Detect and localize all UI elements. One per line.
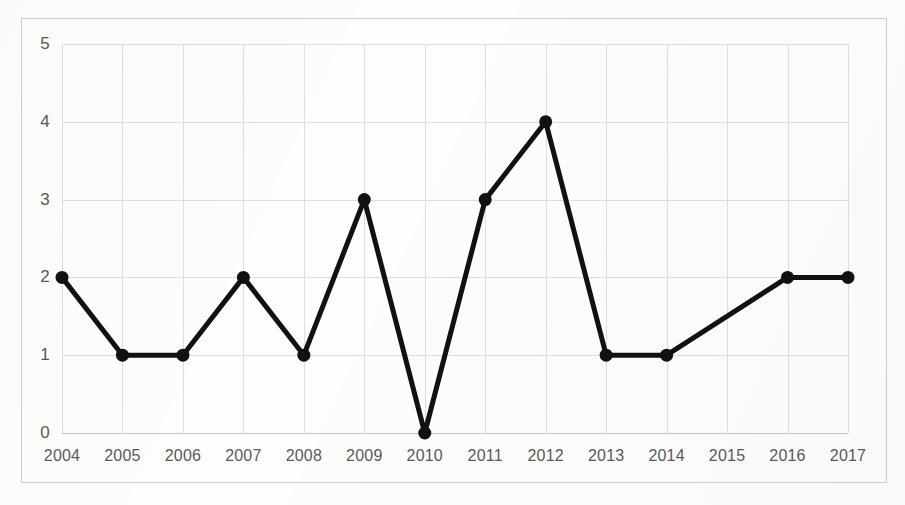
data-point-2009 — [358, 193, 371, 206]
data-point-2010 — [418, 427, 431, 440]
data-point-2005 — [116, 349, 129, 362]
data-point-2007 — [237, 271, 250, 284]
series-markers-group — [56, 115, 855, 439]
data-point-2008 — [297, 349, 310, 362]
data-point-2016 — [781, 271, 794, 284]
data-point-2013 — [600, 349, 613, 362]
data-point-2006 — [176, 349, 189, 362]
series-line-path — [62, 122, 848, 433]
data-point-2017 — [842, 271, 855, 284]
data-point-2014 — [660, 349, 673, 362]
line-series-layer — [0, 0, 905, 505]
data-point-2011 — [479, 193, 492, 206]
chart-screenshot: 012345 200420052006200720082009201020112… — [0, 0, 905, 505]
data-point-2004 — [56, 271, 69, 284]
data-point-2012 — [539, 115, 552, 128]
